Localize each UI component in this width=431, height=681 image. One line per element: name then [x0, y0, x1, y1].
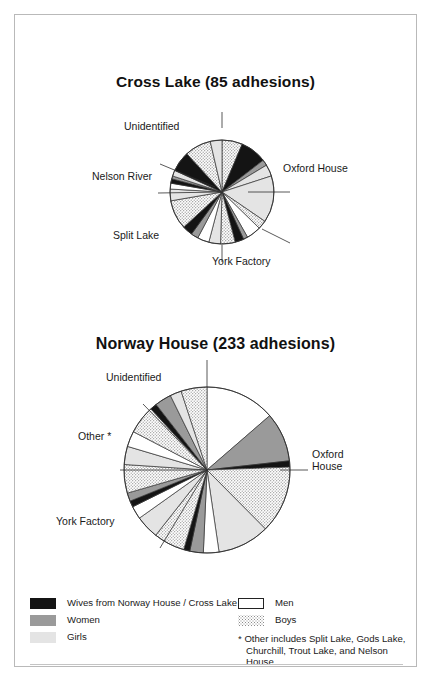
pie-charts-canvas [0, 0, 431, 681]
legend-swatch-men-icon [238, 598, 264, 609]
legend-item-men: Men [238, 597, 294, 609]
legend: Wives from Norway House / Cross Lake Men… [30, 597, 410, 673]
legend-item-boys: Boys [238, 614, 296, 626]
legend-swatch-boys-icon [238, 615, 264, 626]
legend-swatch-girls-icon [30, 632, 56, 643]
legend-item-women: Women [30, 614, 238, 626]
legend-row: Girls * Other includes Split Lake, Gods … [30, 631, 410, 668]
legend-divider [30, 664, 403, 665]
label-split-lake-cross-lake: Split Lake [113, 229, 159, 241]
legend-item-girls: Girls [30, 631, 238, 643]
legend-label-men: Men [275, 597, 294, 609]
label-other-norway-house: Other * [78, 430, 111, 442]
legend-label-boys: Boys [275, 614, 296, 626]
label-york-factory-cross-lake: York Factory [212, 255, 271, 267]
footnote-line-1: * Other includes Split Lake, Gods Lake, [238, 633, 405, 644]
legend-footnote: * Other includes Split Lake, Gods Lake, … [238, 631, 410, 668]
leader-line [262, 229, 290, 243]
legend-swatch-women-icon [30, 615, 56, 626]
legend-label-wives: Wives from Norway House / Cross Lake [67, 597, 237, 609]
label-oxford-house-norway-house-line1: Oxford [312, 448, 344, 460]
label-unidentified-cross-lake: Unidentified [124, 120, 179, 132]
label-oxford-house-cross-lake: Oxford House [283, 162, 348, 174]
label-unidentified-norway-house: Unidentified [106, 371, 161, 383]
legend-row: Women Boys [30, 614, 410, 626]
legend-swatch-wives-icon [30, 598, 56, 609]
legend-row: Wives from Norway House / Cross Lake Men [30, 597, 410, 609]
label-oxford-house-norway-house-line2: House [312, 460, 342, 472]
legend-item-wives: Wives from Norway House / Cross Lake [30, 597, 238, 609]
legend-label-women: Women [67, 614, 100, 626]
legend-label-girls: Girls [67, 631, 87, 643]
label-york-factory-norway-house: York Factory [56, 515, 115, 527]
label-nelson-river-cross-lake: Nelson River [92, 170, 152, 182]
